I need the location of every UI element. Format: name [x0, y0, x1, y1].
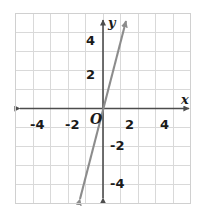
x-tick-label-4: 4: [160, 118, 169, 131]
x-tick-label-2: 2: [125, 118, 134, 131]
x-tick-label-neg2: -2: [65, 118, 79, 131]
y-tick-label-neg4: -4: [110, 177, 124, 190]
coordinate-plane: [0, 0, 204, 214]
y-tick-label-4: 4: [86, 34, 95, 47]
origin-label: O: [90, 112, 102, 126]
y-tick-label-2: 2: [86, 68, 95, 81]
y-axis-label: y: [108, 16, 116, 29]
y-tick-label-neg2: -2: [110, 139, 124, 152]
coordinate-graph-figure: -4 -2 2 4 4 2 -2 -4 O x y: [0, 0, 204, 214]
x-axis-label: x: [181, 93, 189, 106]
x-tick-label-neg4: -4: [30, 118, 44, 131]
